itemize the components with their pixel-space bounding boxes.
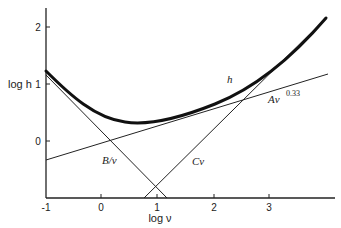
line-b-over-nu xyxy=(46,75,167,198)
y-axis-label: log h xyxy=(8,78,32,90)
x-tick-label-2: 2 xyxy=(211,202,217,213)
y-tick-label-0: 0 xyxy=(35,136,41,147)
label-a-exponent: 0.33 xyxy=(286,89,300,98)
x-tick-label-0: 0 xyxy=(98,202,104,213)
line-c-nu xyxy=(144,18,326,198)
label-c-nu: Cν xyxy=(192,155,204,167)
x-axis-label: log ν xyxy=(148,212,172,224)
line-a-nu-033 xyxy=(46,74,328,160)
y-tick-label-2: 2 xyxy=(35,22,41,33)
x-tick-label-3: 3 xyxy=(266,202,272,213)
x-tick-label--1: -1 xyxy=(42,202,51,213)
y-tick-label-1: 1 xyxy=(35,79,41,90)
label-b-over-nu: B/ν xyxy=(102,154,117,166)
curve-h xyxy=(46,18,326,123)
chart-canvas: 2 1 0 -1 0 1 2 3 log h log ν h B/ν Cν Aν… xyxy=(0,0,341,228)
label-h: h xyxy=(227,73,233,85)
label-a-nu: Aν xyxy=(267,93,280,105)
